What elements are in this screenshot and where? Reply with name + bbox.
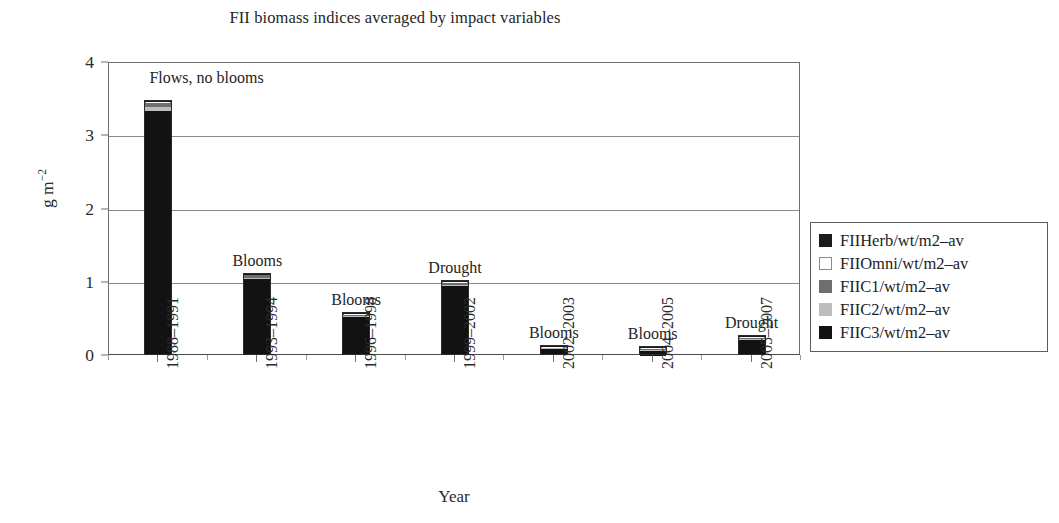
y-axis-tick-mark (101, 355, 108, 356)
x-axis-minor-tick (405, 355, 406, 360)
y-axis-tick-label: 4 (85, 52, 94, 73)
x-axis-tick-mark (652, 355, 653, 362)
y-axis-tick-label: 2 (85, 198, 94, 219)
legend-label: FIIHerb/wt/m2–av (840, 231, 964, 251)
y-axis-tick-mark (101, 135, 108, 136)
x-axis-minor-tick (306, 355, 307, 360)
x-axis-tick-mark (751, 355, 752, 362)
x-axis-minor-tick (602, 355, 603, 360)
x-axis-tick-label: 1988–1991 (164, 297, 182, 369)
y-axis-tick-mark (101, 281, 108, 282)
x-axis-ticks: 1988–19911993–19941996–19981999–20022002… (108, 355, 800, 485)
chart-figure: FII biomass indices averaged by impact v… (0, 0, 1059, 523)
y-axis-tick-mark (101, 62, 108, 63)
legend-item[interactable]: FIIC1/wt/m2–av (819, 275, 1039, 298)
legend-label: FIIOmni/wt/m2–av (840, 254, 968, 274)
legend-swatch-icon (819, 234, 832, 247)
x-axis-minor-tick (108, 355, 109, 360)
x-axis-tick-label: 2002–2003 (560, 297, 578, 369)
chart-legend: FIIHerb/wt/m2–avFIIOmni/wt/m2–avFIIC1/wt… (810, 222, 1048, 352)
y-axis-ticks: 01234 (0, 0, 108, 523)
y-axis-tick-label: 3 (85, 125, 94, 146)
legend-swatch-icon (819, 303, 832, 316)
chart-title: FII biomass indices averaged by impact v… (0, 8, 790, 28)
legend-swatch-icon (819, 257, 832, 270)
x-axis-tick-label: 2005–2007 (758, 297, 776, 369)
x-axis-minor-tick (503, 355, 504, 360)
legend-swatch-icon (819, 280, 832, 293)
x-axis-minor-tick (207, 355, 208, 360)
x-axis-title: Year (108, 487, 800, 507)
y-axis-tick-label: 1 (85, 271, 94, 292)
y-axis-tick-label: 0 (85, 345, 94, 366)
legend-swatch-icon (819, 326, 832, 339)
x-axis-tick-mark (553, 355, 554, 362)
legend-label: FIIC2/wt/m2–av (840, 300, 950, 320)
legend-label: FIIC3/wt/m2–av (840, 323, 950, 343)
legend-item[interactable]: FIIC2/wt/m2–av (819, 298, 1039, 321)
x-axis-minor-tick (800, 355, 801, 360)
x-axis-minor-tick (701, 355, 702, 360)
x-axis-tick-mark (355, 355, 356, 362)
x-axis-tick-mark (256, 355, 257, 362)
bar-annotation: Drought (428, 259, 481, 277)
legend-label: FIIC1/wt/m2–av (840, 277, 950, 297)
x-axis-tick-label: 2004–2005 (659, 297, 677, 369)
legend-item[interactable]: FIIOmni/wt/m2–av (819, 252, 1039, 275)
x-axis-tick-label: 1996–1998 (362, 297, 380, 369)
y-axis-tick-mark (101, 208, 108, 209)
x-axis-tick-label: 1993–1994 (263, 297, 281, 369)
x-axis-tick-mark (157, 355, 158, 362)
plot-area: Flows, no bloomsBloomsBloomsDroughtBloom… (108, 62, 800, 355)
legend-item[interactable]: FIIHerb/wt/m2–av (819, 229, 1039, 252)
legend-item[interactable]: FIIC3/wt/m2–av (819, 321, 1039, 344)
bar-annotation: Blooms (232, 252, 282, 270)
x-axis-tick-label: 1999–2002 (461, 297, 479, 369)
x-axis-tick-mark (454, 355, 455, 362)
